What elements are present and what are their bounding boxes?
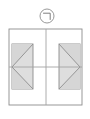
drawing-canvas [0, 0, 90, 119]
left-bowtie-feature[interactable] [12, 44, 33, 89]
detail-callout[interactable] [40, 9, 54, 23]
technical-drawing-svg [0, 0, 90, 119]
detail-callout-circle[interactable] [40, 9, 54, 23]
right-bowtie-feature[interactable] [59, 44, 80, 89]
